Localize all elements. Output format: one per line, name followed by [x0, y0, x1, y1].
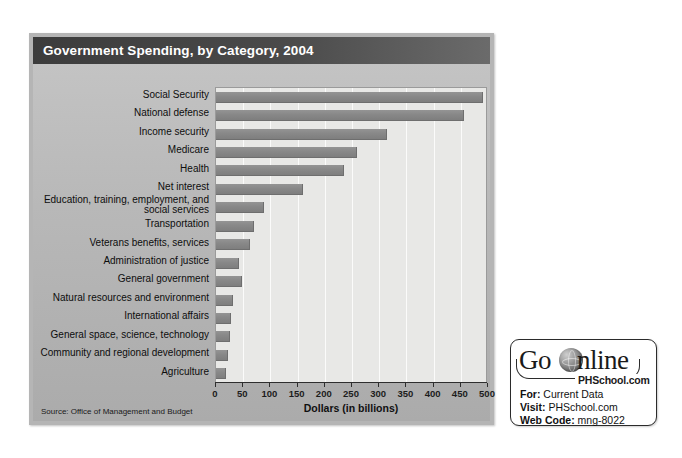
bar [216, 165, 344, 176]
go-online-logo: Go nline PHSchool.com [511, 343, 656, 383]
figure-title-bar: Government Spending, by Category, 2004 [33, 37, 490, 64]
go-online-visit-label: Visit: [520, 401, 545, 413]
figure-body: Social SecurityNational defenseIncome se… [33, 64, 490, 421]
bar-row [216, 272, 242, 290]
bar [216, 276, 242, 287]
x-axis-tick-label: 100 [261, 388, 277, 399]
category-label: International affairs [124, 311, 209, 322]
bar-series [216, 88, 486, 382]
x-axis-title: Dollars (in billions) [215, 402, 487, 414]
x-axis-tick-label: 250 [343, 388, 359, 399]
source-note: Source: Office of Management and Budget [41, 407, 193, 416]
bar [216, 258, 239, 269]
category-label: Social Security [143, 90, 209, 101]
bar-row [216, 254, 239, 272]
x-axis-tick [433, 383, 434, 387]
category-label: Education, training, employment, and soc… [33, 195, 209, 216]
bar [216, 221, 254, 232]
category-label: Agriculture [161, 367, 209, 378]
x-axis-tick [297, 383, 298, 387]
bar [216, 368, 226, 379]
logo-tagline: PHSchool.com [575, 374, 650, 386]
category-label: Health [180, 164, 209, 175]
x-axis-tick [242, 383, 243, 387]
bar-row [216, 143, 357, 161]
figure-panel: Government Spending, by Category, 2004 S… [29, 33, 494, 425]
go-online-code-value: mng-8022 [578, 414, 625, 426]
go-online-code-label: Web Code: [520, 414, 575, 426]
category-label: Net interest [158, 182, 209, 193]
bar-row [216, 125, 387, 143]
x-axis-tick-label: 50 [237, 388, 248, 399]
go-online-for-value: Current Data [543, 388, 603, 400]
x-axis-tick-label: 400 [425, 388, 441, 399]
bar-row [216, 106, 464, 124]
go-online-visit-row: Visit: PHSchool.com [520, 401, 656, 414]
bar [216, 184, 303, 195]
bar-row [216, 309, 231, 327]
bar [216, 202, 264, 213]
bar [216, 331, 230, 342]
category-label: Income security [139, 127, 209, 138]
go-online-code-row: Web Code: mng-8022 [520, 414, 656, 427]
x-axis-tick-label: 300 [370, 388, 386, 399]
page-title: Government Spending, by Category, 2004 [43, 43, 314, 58]
bar-row [216, 236, 250, 254]
category-label: Natural resources and environment [53, 293, 209, 304]
x-axis-tick [324, 383, 325, 387]
x-axis-tick-label: 0 [212, 388, 217, 399]
bar [216, 350, 228, 361]
bar-chart: 050100150200250300350400450500 Dollars (… [215, 87, 487, 382]
go-online-box[interactable]: Go nline PHSchool.com For: Current Data … [510, 339, 657, 426]
bar [216, 295, 233, 306]
plot-area [215, 87, 487, 382]
bar-row [216, 217, 254, 235]
bar [216, 110, 464, 121]
x-axis-tick-label: 150 [289, 388, 305, 399]
x-axis-tick-label: 450 [452, 388, 468, 399]
go-online-for-label: For: [520, 388, 540, 400]
x-axis-tick [378, 383, 379, 387]
category-label: Community and regional development [41, 348, 209, 359]
category-label: Administration of justice [103, 256, 209, 267]
bar [216, 92, 483, 103]
category-label: Transportation [145, 219, 209, 230]
x-axis-tick-label: 200 [316, 388, 332, 399]
x-axis-tick [405, 383, 406, 387]
category-label: General government [118, 274, 209, 285]
bar-row [216, 346, 228, 364]
x-axis-tick [460, 383, 461, 387]
bar [216, 313, 231, 324]
bar [216, 239, 250, 250]
category-label: National defense [134, 108, 209, 119]
x-axis-tick-label: 500 [479, 388, 495, 399]
category-label: Medicare [168, 145, 209, 156]
go-online-for-row: For: Current Data [520, 388, 656, 401]
bar [216, 129, 387, 140]
bar [216, 147, 357, 158]
category-label: General space, science, technology [51, 330, 209, 341]
page-root: Government Spending, by Category, 2004 S… [0, 0, 682, 458]
bar-row [216, 291, 233, 309]
bar-row [216, 365, 226, 382]
x-axis-tick [351, 383, 352, 387]
go-online-visit-value[interactable]: PHSchool.com [548, 401, 617, 413]
bar-row [216, 199, 264, 217]
bar-row [216, 88, 483, 106]
x-axis-tick-label: 350 [397, 388, 413, 399]
category-label: Veterans benefits, services [89, 238, 209, 249]
category-label-list: Social SecurityNational defenseIncome se… [33, 87, 212, 382]
go-online-details: For: Current Data Visit: PHSchool.com We… [520, 388, 656, 427]
bar-row [216, 162, 344, 180]
x-axis-tick [215, 383, 216, 387]
bar-row [216, 328, 230, 346]
x-axis-tick [269, 383, 270, 387]
bar-row [216, 180, 303, 198]
x-axis-tick [487, 383, 488, 387]
